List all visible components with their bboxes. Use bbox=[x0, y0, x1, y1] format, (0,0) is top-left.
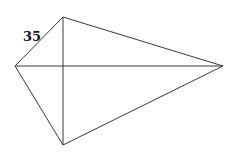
edge-right-bottom bbox=[63, 66, 223, 145]
edge-bottom-left bbox=[15, 66, 63, 145]
edge-top-right bbox=[63, 17, 223, 66]
kite-diagram: 35 bbox=[0, 0, 236, 155]
side-length-label: 35 bbox=[23, 29, 41, 44]
